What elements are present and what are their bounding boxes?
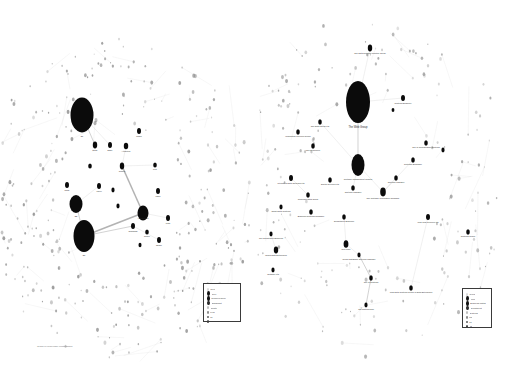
right-network-graph-node-ellipse[interactable] xyxy=(352,154,365,176)
right-network-graph-node[interactable]: Department Business xyxy=(334,214,354,222)
left-network-graph-node-ellipse[interactable] xyxy=(111,188,114,193)
right-network-graph-node-ellipse[interactable] xyxy=(401,95,405,101)
right-network-graph-node[interactable]: Systems Manager xyxy=(345,185,362,193)
right-network-graph-node-ellipse[interactable] xyxy=(311,143,315,149)
left-network-graph-node[interactable]: Model xyxy=(136,128,142,137)
right-network-graph-edge[interactable] xyxy=(291,178,308,195)
left-network-graph-node-ellipse[interactable] xyxy=(131,223,135,229)
right-network-graph-node[interactable]: Red Corp xyxy=(342,240,352,250)
right-network-graph-node[interactable]: Senior Database Services Manager xyxy=(343,253,376,260)
right-network-graph-node-ellipse[interactable] xyxy=(306,192,310,198)
left-network-graph-node-ellipse[interactable] xyxy=(166,215,170,221)
right-network-graph-node-ellipse[interactable] xyxy=(409,285,413,291)
left-network-graph-node-ellipse[interactable] xyxy=(120,163,124,170)
left-network-graph-node[interactable]: Spline xyxy=(144,229,151,237)
left-network-graph-node-ellipse[interactable] xyxy=(65,182,69,188)
left-network-graph-node-ellipse[interactable] xyxy=(124,143,128,149)
left-network-graph-node-ellipse[interactable] xyxy=(153,162,157,167)
left-network-graph-node[interactable]: E2 xyxy=(70,195,83,217)
right-network-graph-node-ellipse[interactable] xyxy=(424,140,428,146)
left-network-graph-node[interactable]: E3 xyxy=(74,220,95,256)
right-network-graph-node-ellipse[interactable] xyxy=(426,214,430,220)
right-network-graph-node[interactable]: The Web Group xyxy=(346,81,370,129)
right-network-graph-node[interactable]: The Data Design xyxy=(358,303,374,310)
right-network-graph-node-ellipse[interactable] xyxy=(346,81,370,123)
right-network-graph-node[interactable]: The Data Group Ltd xyxy=(311,119,330,127)
right-network-graph-node[interactable]: Information Services Group xyxy=(285,129,311,137)
right-network-graph-node-ellipse[interactable] xyxy=(364,303,367,308)
right-network-graph-edge[interactable] xyxy=(411,217,428,288)
right-network-graph-node-ellipse[interactable] xyxy=(309,209,313,215)
left-legend-row[interactable]: L2 xyxy=(207,319,237,324)
right-network-graph-node-ellipse[interactable] xyxy=(357,253,360,258)
left-network-graph-node[interactable] xyxy=(116,204,119,209)
left-network-graph-node[interactable]: Label xyxy=(155,188,161,197)
right-network-graph-node[interactable]: The Resources xyxy=(306,143,320,151)
left-network-graph-node[interactable]: Cluster xyxy=(119,163,126,172)
left-network-graph-edge[interactable] xyxy=(122,165,155,166)
left-network-graph-node[interactable]: E1 xyxy=(71,98,94,138)
right-network-graph-node[interactable]: Corporate Data Group xyxy=(298,192,319,200)
right-network-graph-node-ellipse[interactable] xyxy=(289,175,293,181)
right-network-graph-node[interactable]: Smart Data Systems xyxy=(271,205,290,212)
left-network-graph-node-ellipse[interactable] xyxy=(157,237,161,243)
left-network-graph-node[interactable]: Architecture xyxy=(137,206,149,221)
right-network-graph-node-ellipse[interactable] xyxy=(351,185,355,191)
left-network-graph-node[interactable]: Port xyxy=(153,162,157,170)
left-network-graph-node-ellipse[interactable] xyxy=(116,204,119,209)
right-legend-row[interactable]: T2 xyxy=(466,324,488,329)
right-network-graph-node[interactable]: Media Data Enterprises xyxy=(265,247,287,256)
left-network-graph-node-ellipse[interactable] xyxy=(97,183,101,189)
right-network-graph-node[interactable]: The IT Configuration Systems xyxy=(412,140,439,148)
left-network-graph-node[interactable]: Path xyxy=(166,215,171,224)
right-network-graph-node-ellipse[interactable] xyxy=(318,119,322,125)
left-network-graph-node-ellipse[interactable] xyxy=(156,188,160,194)
right-network-graph-node-ellipse[interactable] xyxy=(411,157,415,163)
right-network-graph-node-ellipse[interactable] xyxy=(279,205,282,210)
right-network-graph-node[interactable]: Systems Engineer xyxy=(395,95,412,104)
left-network-graph-node-ellipse[interactable] xyxy=(139,243,142,247)
left-network-graph-node[interactable]: Shape xyxy=(156,237,163,246)
right-network-graph-node[interactable]: Digital Services Ltd xyxy=(321,177,340,185)
right-network-graph-node[interactable]: Systems Group xyxy=(461,229,476,237)
right-network-graph-node-ellipse[interactable] xyxy=(368,45,372,52)
right-network-graph-node-ellipse[interactable] xyxy=(328,177,332,183)
left-network-graph-node-ellipse[interactable] xyxy=(70,195,83,213)
right-network-graph-node-ellipse[interactable] xyxy=(296,129,300,135)
left-network-graph-node-ellipse[interactable] xyxy=(74,220,95,252)
right-network-graph-node-ellipse[interactable] xyxy=(269,232,272,237)
right-network-graph-node[interactable]: Business Systems Company xyxy=(298,209,325,217)
left-network-graph-node[interactable]: Node xyxy=(93,142,99,151)
right-network-graph-node-ellipse[interactable] xyxy=(274,247,278,254)
right-network-graph-node-ellipse[interactable] xyxy=(342,214,346,220)
left-network-graph-node[interactable] xyxy=(139,243,142,247)
left-network-graph-node[interactable]: Subgraph xyxy=(128,223,138,232)
right-network-graph-node-ellipse[interactable] xyxy=(394,175,398,181)
right-network-graph-node[interactable]: Systems Exchange xyxy=(404,157,423,165)
left-network-graph-node-ellipse[interactable] xyxy=(137,128,141,134)
right-network-graph-node[interactable]: Systems Manager xyxy=(388,175,405,183)
right-network-graph-node-ellipse[interactable] xyxy=(344,240,349,248)
right-network-graph-node[interactable]: Integrated Data Solutions Ltd xyxy=(278,175,306,184)
right-network-graph-node-ellipse[interactable] xyxy=(380,188,386,197)
left-network-graph-node-ellipse[interactable] xyxy=(88,163,92,168)
right-network-graph-node[interactable]: Web Web Services Ltd xyxy=(417,214,439,223)
right-network-graph-node[interactable] xyxy=(441,148,444,153)
left-network-graph-node[interactable]: Edge xyxy=(108,142,114,151)
right-network-graph-node[interactable]: The Department Business xyxy=(259,232,283,239)
right-network-graph-node-ellipse[interactable] xyxy=(392,108,395,112)
right-network-graph-node[interactable]: Web Data Systems Group of Data Enterpris… xyxy=(390,285,432,293)
left-network-graph-node[interactable]: Attributes xyxy=(122,143,131,152)
left-network-graph-node-ellipse[interactable] xyxy=(71,98,94,133)
left-network-graph-node[interactable] xyxy=(88,163,92,168)
right-network-graph-node[interactable]: Software Ltd xyxy=(267,268,280,275)
right-network-graph-node[interactable]: The Software Information Company xyxy=(367,188,401,199)
left-network-graph-edge[interactable] xyxy=(122,166,143,213)
right-network-graph-node-ellipse[interactable] xyxy=(466,229,470,235)
left-network-graph-node[interactable] xyxy=(111,188,114,193)
right-network-graph-node[interactable] xyxy=(392,108,395,112)
right-network-graph-node-ellipse[interactable] xyxy=(441,148,444,153)
left-network-graph-node[interactable]: Rank xyxy=(65,182,71,191)
right-network-graph-node-ellipse[interactable] xyxy=(369,275,373,281)
left-network-graph-node-ellipse[interactable] xyxy=(93,142,97,149)
